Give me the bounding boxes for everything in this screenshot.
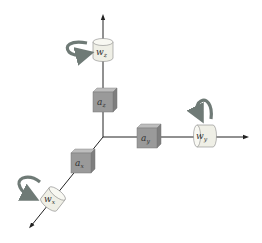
rotation-arrow-x-icon — [19, 177, 40, 195]
accelerometer-x-cube: ax — [71, 149, 95, 173]
accelerometer-y-cube: ay — [137, 124, 161, 148]
rotation-arrow-z-icon — [67, 42, 87, 55]
rotation-arrow-y-icon — [197, 100, 211, 119]
gyroscope-y-cylinder: wy — [194, 125, 217, 147]
accelerometer-z-cube: az — [93, 88, 117, 112]
w-y-sub: y — [203, 135, 208, 143]
imu-axes-diagram: az ay ax wz wy wx — [0, 0, 262, 243]
gyroscope-z-cylinder: wz — [93, 39, 113, 62]
a-y-sub: y — [145, 137, 150, 145]
